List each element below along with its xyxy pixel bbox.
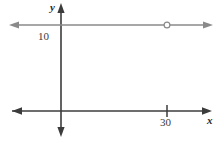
x-axis [12,105,212,117]
y-tick-label-10: 10 [38,31,49,42]
function-arrow-right [203,22,213,29]
x-axis-label: x [207,115,213,126]
x-axis-arrow-left [12,107,22,115]
function-arrow-left [9,22,19,29]
series-constant-function [9,22,213,29]
y-axis-arrow-down [57,127,64,137]
x-tick-label-30: 30 [160,117,171,128]
graph-canvas [0,0,222,146]
coordinate-plane-figure: y x 10 30 [0,0,222,146]
y-axis-label: y [50,2,55,13]
open-circle-point [164,22,170,28]
y-axis [57,3,64,137]
y-axis-arrow-up [57,3,64,13]
